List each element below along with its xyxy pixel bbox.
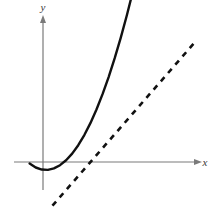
x-axis-arrowhead — [194, 159, 202, 165]
plot-canvas: x y — [0, 0, 219, 209]
y-axis-label: y — [40, 1, 46, 13]
solid-curve — [30, 0, 164, 170]
dashed-tangent-line — [24, 41, 197, 209]
figure-container: x y — [0, 0, 219, 209]
x-axis-label: x — [202, 156, 208, 168]
x-axis — [14, 159, 202, 165]
y-axis-arrowhead — [40, 15, 46, 23]
y-axis — [40, 15, 46, 190]
